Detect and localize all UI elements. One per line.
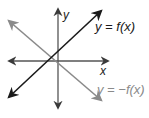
f-line-label: y = f(x) [95,20,135,34]
x-axis-label: x [100,64,106,78]
f-line [9,11,101,97]
neg-f-line-label: y = −f(x) [97,83,145,97]
function-reflection-diagram: y x y = f(x) y = −f(x) [0,0,149,118]
graph-canvas [0,0,149,118]
y-axis-label: y [63,8,69,22]
